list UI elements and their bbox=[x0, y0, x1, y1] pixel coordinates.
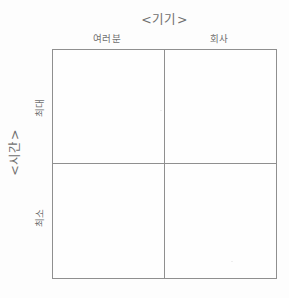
matrix-cell-text bbox=[165, 50, 277, 163]
column-header-0: 여러분 bbox=[52, 31, 162, 45]
y-axis-title: <시간> bbox=[4, 103, 23, 203]
matrix-cell-text bbox=[53, 50, 164, 163]
matrix-cell-text bbox=[165, 164, 277, 278]
column-header-1: 회사 bbox=[162, 31, 277, 45]
matrix-figure: <기기> 여러분 회사 <시간> 최대 최소 bbox=[0, 0, 289, 298]
matrix-cell-text bbox=[53, 164, 164, 278]
matrix-cell-bottom-left[interactable] bbox=[53, 164, 165, 278]
matrix-cell-top-left[interactable] bbox=[53, 50, 165, 164]
matrix-grid bbox=[52, 49, 277, 279]
matrix-cell-bottom-right[interactable] bbox=[165, 164, 277, 278]
row-header-0: 최대 bbox=[32, 75, 46, 141]
matrix-cell-top-right[interactable] bbox=[165, 50, 277, 164]
x-axis-title: <기기> bbox=[52, 9, 277, 28]
row-header-1: 최소 bbox=[32, 185, 46, 251]
